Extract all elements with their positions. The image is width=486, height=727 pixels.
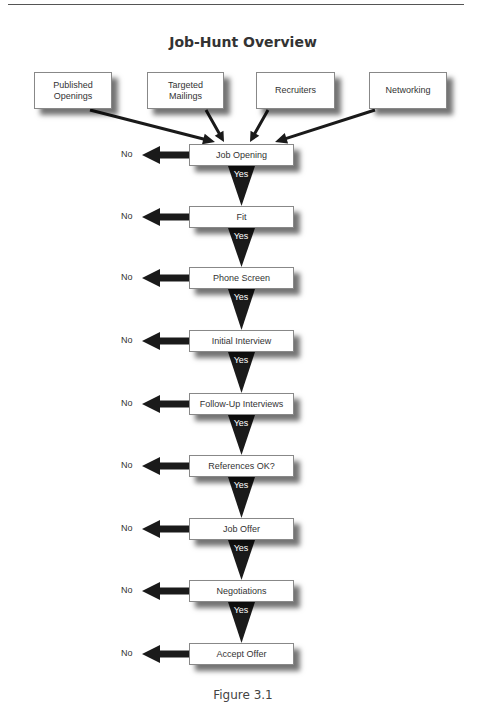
yes-label: Yes	[230, 292, 252, 302]
no-arrow	[142, 146, 189, 164]
arrow-recruiters	[250, 109, 269, 142]
no-label: No	[121, 523, 133, 533]
no-arrow	[142, 395, 189, 413]
no-arrow	[142, 582, 189, 600]
no-label: No	[121, 211, 133, 221]
arrow-published-openings	[90, 109, 215, 145]
step-box: Accept Offer	[189, 643, 294, 665]
no-arrow	[142, 269, 189, 287]
source-box-1: Targeted Mailings	[147, 72, 224, 109]
no-label: No	[121, 585, 133, 595]
source-box-2: Recruiters	[256, 72, 335, 109]
step-box: Follow-Up Interviews	[189, 393, 294, 415]
step-box: Negotiations	[189, 580, 294, 602]
step-box: Phone Screen	[189, 267, 294, 289]
yes-label: Yes	[230, 605, 252, 615]
step-box: Fit	[189, 206, 294, 228]
no-label: No	[121, 398, 133, 408]
yes-label: Yes	[230, 543, 252, 553]
step-box: Job Opening	[189, 144, 294, 166]
source-box-3: Networking	[369, 72, 447, 109]
source-label: Networking	[385, 85, 430, 96]
source-label: Targeted Mailings	[168, 80, 203, 102]
step-box: References OK?	[189, 455, 294, 477]
no-arrow	[142, 457, 189, 475]
yes-label: Yes	[230, 231, 252, 241]
no-label: No	[121, 335, 133, 345]
no-arrow	[142, 645, 189, 663]
yes-label: Yes	[230, 355, 252, 365]
step-box: Initial Interview	[189, 330, 294, 352]
step-box: Job Offer	[189, 518, 294, 540]
source-label: Published Openings	[53, 80, 93, 102]
no-label: No	[121, 460, 133, 470]
no-label: No	[121, 149, 133, 159]
yes-label: Yes	[230, 418, 252, 428]
arrow-networking	[275, 109, 375, 144]
no-arrow	[142, 520, 189, 538]
no-arrow	[142, 208, 189, 226]
yes-label: Yes	[230, 480, 252, 490]
no-label: No	[121, 648, 133, 658]
source-box-0: Published Openings	[34, 72, 112, 109]
no-arrow	[142, 332, 189, 350]
yes-label: Yes	[230, 169, 252, 179]
no-label: No	[121, 272, 133, 282]
figure-caption: Figure 3.1	[0, 688, 486, 702]
source-label: Recruiters	[275, 85, 316, 96]
